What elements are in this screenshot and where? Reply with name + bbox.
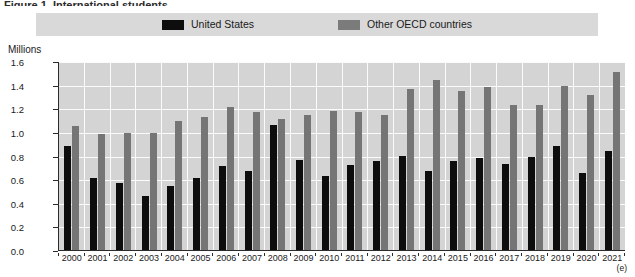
bar	[64, 146, 71, 250]
x-axis-labels: 2000200120022003200420052006200720082009…	[59, 253, 625, 263]
bar	[201, 117, 208, 250]
x-axis-tick	[84, 253, 85, 256]
bar	[304, 115, 311, 250]
bar-group	[265, 62, 291, 250]
x-axis-tick	[58, 253, 59, 256]
bar	[613, 72, 620, 250]
bar	[476, 158, 483, 250]
bar-chart: 0.00.20.40.60.81.01.21.41.6	[30, 58, 628, 251]
bar-group	[316, 62, 342, 250]
bar	[330, 111, 337, 250]
bar	[72, 126, 79, 250]
x-axis-tick-label: 2019	[548, 253, 574, 263]
y-axis-tick	[53, 227, 58, 228]
y-axis-tick	[53, 204, 58, 205]
bar	[528, 157, 535, 250]
y-axis-tick	[53, 157, 58, 158]
x-axis-tick	[444, 253, 445, 256]
x-axis-tick	[161, 253, 162, 256]
bar	[322, 176, 329, 250]
y-axis-tick	[53, 62, 58, 63]
y-axis-tick	[53, 109, 58, 110]
bar	[484, 87, 491, 250]
bar	[150, 133, 157, 250]
legend-item-united-states: United States	[162, 19, 254, 30]
x-axis-tick-label: 2010	[316, 253, 342, 263]
bar-group	[445, 62, 471, 250]
x-axis-line	[58, 250, 625, 251]
y-axis-tick-label: 1.6	[0, 58, 24, 68]
y-axis-tick-label: 0.4	[0, 199, 24, 209]
bar	[124, 133, 131, 250]
x-axis-tick-label: 2011	[342, 253, 368, 263]
bar-series-container	[59, 62, 625, 250]
x-axis-tick-label: 2007	[239, 253, 265, 263]
bar	[510, 105, 517, 250]
bar-group	[239, 62, 265, 250]
bar	[373, 161, 380, 250]
x-axis-tick	[187, 253, 188, 256]
x-axis-tick-label: 2002	[110, 253, 136, 263]
x-axis-tick-label: 2018	[522, 253, 548, 263]
bar	[425, 171, 432, 250]
bar	[399, 156, 406, 251]
x-axis-tick-label: 2016	[471, 253, 497, 263]
bar-group	[574, 62, 600, 250]
x-axis-tick	[367, 253, 368, 256]
bar-group	[59, 62, 85, 250]
bar	[407, 89, 414, 250]
x-axis-tick-label: 2001	[85, 253, 111, 263]
y-axis-tick	[53, 251, 58, 252]
bar	[433, 80, 440, 250]
bar-group	[110, 62, 136, 250]
bar-group	[85, 62, 111, 250]
bar-group	[599, 62, 625, 250]
bar-group	[342, 62, 368, 250]
x-axis-tick-label: 2005	[188, 253, 214, 263]
bar	[175, 121, 182, 250]
x-axis-tick-label: 2021	[599, 253, 625, 263]
bar-group	[548, 62, 574, 250]
estimate-note: (e)	[617, 264, 627, 273]
bar	[553, 146, 560, 250]
x-axis-tick-label: 2008	[265, 253, 291, 263]
x-axis-tick	[624, 253, 625, 256]
bar	[381, 115, 388, 250]
y-axis-tick-label: 0.8	[0, 152, 24, 162]
bar-group	[394, 62, 420, 250]
bar-group	[368, 62, 394, 250]
x-axis-tick	[573, 253, 574, 256]
bar-group	[136, 62, 162, 250]
bar	[219, 166, 226, 250]
bar	[142, 196, 149, 250]
legend-label-united-states: United States	[191, 19, 254, 30]
x-axis-tick-label: 2012	[368, 253, 394, 263]
y-axis-tick-label: 1.0	[0, 128, 24, 138]
y-axis-title: Millions	[8, 44, 41, 55]
x-axis-tick	[212, 253, 213, 256]
x-axis-tick-label: 2015	[445, 253, 471, 263]
x-axis-tick	[109, 253, 110, 256]
bar	[98, 134, 105, 250]
x-axis-tick-label: 2013	[394, 253, 420, 263]
bar	[587, 95, 594, 250]
bar	[458, 91, 465, 250]
x-axis-tick-label: 2000	[59, 253, 85, 263]
y-axis-tick-label: 1.2	[0, 105, 24, 115]
x-axis-tick	[470, 253, 471, 256]
legend-label-other-oecd-countries: Other OECD countries	[367, 19, 472, 30]
x-axis-tick-label: 2020	[574, 253, 600, 263]
y-axis-tick-label: 0.0	[0, 247, 24, 257]
bar-group	[471, 62, 497, 250]
bar-group	[522, 62, 548, 250]
y-axis-tick-label: 1.4	[0, 81, 24, 91]
x-axis-tick-label: 2017	[496, 253, 522, 263]
bar	[561, 86, 568, 250]
y-axis-tick	[53, 86, 58, 87]
x-axis-tick	[547, 253, 548, 256]
chart-legend: United States Other OECD countries	[36, 13, 598, 36]
bar-group	[162, 62, 188, 250]
x-axis-tick-label: 2006	[213, 253, 239, 263]
bar	[90, 178, 97, 250]
bar	[536, 105, 543, 250]
